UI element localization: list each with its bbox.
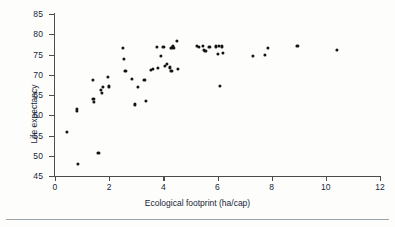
y-tick-mark (49, 75, 54, 76)
data-point (170, 70, 173, 73)
data-point (151, 67, 154, 70)
data-point (177, 67, 180, 70)
data-point (335, 48, 338, 51)
data-point (97, 151, 100, 154)
data-point (219, 84, 222, 87)
data-point (143, 78, 146, 81)
y-tick-mark (49, 55, 54, 56)
y-tick-label: 50 (21, 151, 43, 161)
data-point (220, 45, 223, 48)
data-point (131, 77, 134, 80)
y-tick-mark (49, 95, 54, 96)
x-axis-label: Ecological footprint (ha/cap) (0, 198, 395, 208)
data-point (208, 45, 211, 48)
y-tick-mark (49, 136, 54, 137)
x-tick-mark (380, 177, 381, 181)
data-point (266, 46, 269, 49)
x-tick-mark (326, 177, 327, 181)
data-point (106, 76, 109, 79)
x-tick-label: 8 (262, 182, 282, 192)
y-tick-label: 45 (21, 171, 43, 181)
data-point (124, 69, 127, 72)
data-point (136, 85, 139, 88)
data-point (122, 57, 125, 60)
y-axis-label: Life expectancy (29, 84, 39, 143)
y-tick-mark (49, 34, 54, 35)
x-tick-mark (272, 177, 273, 181)
data-point (296, 44, 299, 47)
data-point (155, 45, 158, 48)
y-tick-label: 85 (21, 9, 43, 19)
y-tick-mark (49, 14, 54, 15)
plot-data-area (55, 14, 380, 176)
data-point (156, 67, 159, 70)
data-point (221, 51, 224, 54)
y-tick-label: 70 (21, 70, 43, 80)
data-point (159, 54, 162, 57)
data-point (162, 45, 165, 48)
data-point (93, 101, 96, 104)
x-tick-label: 0 (45, 182, 65, 192)
x-tick-mark (218, 177, 219, 181)
data-point (102, 86, 105, 89)
x-tick-label: 12 (370, 182, 390, 192)
data-point (76, 162, 79, 165)
data-point (66, 131, 69, 134)
page-footer-rule (6, 219, 389, 220)
y-tick-mark (49, 115, 54, 116)
data-point (204, 49, 207, 52)
y-tick-label: 80 (21, 29, 43, 39)
y-tick-mark (49, 176, 54, 177)
x-tick-label: 2 (99, 182, 119, 192)
data-point (175, 39, 178, 42)
x-tick-label: 6 (208, 182, 228, 192)
data-point (91, 78, 94, 81)
x-tick-mark (55, 177, 56, 181)
x-tick-mark (109, 177, 110, 181)
data-point (216, 52, 219, 55)
data-point (172, 46, 175, 49)
x-tick-label: 10 (316, 182, 336, 192)
data-point (75, 110, 78, 113)
x-tick-label: 4 (153, 182, 173, 192)
data-point (263, 53, 266, 56)
data-point (144, 99, 147, 102)
data-point (197, 46, 200, 49)
data-point (165, 63, 168, 66)
data-point (121, 46, 124, 49)
y-tick-mark (49, 156, 54, 157)
x-tick-mark (163, 177, 164, 181)
y-tick-label: 75 (21, 50, 43, 60)
scatter-plot-figure: 455055606570758085 024681012 Life expect… (0, 0, 395, 227)
data-point (100, 91, 103, 94)
data-point (133, 103, 136, 106)
data-point (108, 85, 111, 88)
data-point (251, 55, 254, 58)
